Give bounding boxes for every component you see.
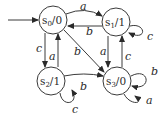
edge-label-s3-s1: c — [125, 50, 131, 63]
edge-label-s3-s3-b: b — [151, 65, 158, 78]
state-label: s1/1 — [105, 16, 125, 30]
edge-label-s0-s3: b — [74, 45, 81, 58]
edge-label-s1-s3: a — [100, 45, 107, 58]
state-s0: s0/0 — [39, 6, 67, 34]
diagram-canvas: a b c a b c a c c b b a — [0, 0, 167, 118]
state-label: s0/0 — [42, 14, 62, 28]
edge-label-s1-s1: c — [147, 30, 153, 43]
edge-s3-s3-a — [124, 94, 139, 103]
edge-label-s2-s0: a — [49, 50, 56, 63]
edge-label-s0-s2: c — [36, 42, 42, 55]
edge-label-s0-s1: a — [80, 0, 87, 13]
edge-s0-s3 — [64, 30, 104, 72]
edge-label-s1-s0: b — [86, 25, 93, 38]
state-s3: s3/0 — [103, 67, 131, 95]
state-s2: s2/1 — [37, 67, 65, 95]
state-label: s3/0 — [106, 75, 126, 89]
edge-s1-s1 — [129, 25, 143, 35]
state-diagram: a b c a b c a c c b b a — [0, 0, 167, 118]
edge-label-s2-s3: b — [80, 80, 87, 93]
state-label: s2/1 — [40, 75, 60, 89]
edge-s2-s3 — [64, 74, 103, 76]
edge-s3-s3-b — [131, 74, 146, 87]
edge-label-s3-s3-a: a — [146, 94, 153, 107]
edge-label-s2-s2: c — [72, 103, 78, 116]
edge-s2-s2 — [60, 90, 74, 103]
state-s1: s1/1 — [102, 8, 130, 36]
